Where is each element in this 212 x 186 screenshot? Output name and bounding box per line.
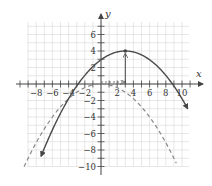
- y-tick-label: −2: [83, 96, 96, 106]
- y-tick-label: 4: [91, 46, 96, 56]
- y-axis-label: y: [104, 8, 111, 19]
- x-axis-label: x: [196, 68, 202, 79]
- y-tick-label: 6: [91, 30, 96, 40]
- x-tick-label: 4: [131, 88, 136, 98]
- y-tick-label: −8: [83, 145, 96, 155]
- x-tick-label: 2: [114, 88, 119, 98]
- x-tick-label: −6: [46, 88, 59, 98]
- vertex-point: [124, 49, 128, 53]
- x-tick-label: 6: [147, 88, 152, 98]
- y-tick-label: −6: [83, 129, 96, 139]
- y-tick-label: −10: [78, 162, 96, 172]
- x-tick-label: −4: [62, 88, 75, 98]
- parabola-graph: −8−6−4−2246810 642−2−4−6−8−10 x y: [0, 0, 212, 186]
- y-tick-label: −4: [83, 112, 96, 122]
- x-tick-labels: −8−6−4−2246810: [30, 88, 187, 98]
- x-tick-label: −8: [30, 88, 43, 98]
- x-tick-label: 8: [163, 88, 168, 98]
